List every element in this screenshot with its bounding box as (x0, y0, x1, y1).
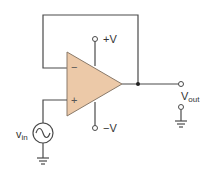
ground-icon (37, 158, 49, 164)
circuit-diagram: − + +V −V Vout vin (0, 0, 209, 178)
noninverting-input-sign: + (71, 94, 77, 106)
positive-supply-label: +V (103, 33, 117, 45)
output-label: Vout (181, 90, 200, 104)
positive-supply-terminal (93, 37, 98, 42)
negative-supply-terminal (93, 126, 98, 131)
negative-supply-label: −V (103, 122, 117, 134)
output-terminal (179, 82, 184, 87)
ground-icon (175, 121, 187, 127)
inverting-input-sign: − (71, 61, 77, 73)
ac-source-icon (33, 123, 53, 143)
output-ground-terminal (179, 105, 184, 110)
input-label: vin (16, 128, 28, 142)
input-wire (43, 100, 67, 125)
junction-dot (136, 82, 140, 86)
